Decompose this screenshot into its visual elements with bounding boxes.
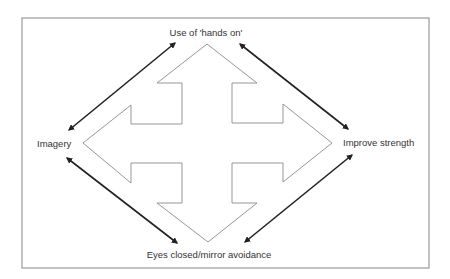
label-improve-strength: Improve strength [343,138,414,148]
label-imagery: Imagery [37,139,71,149]
label-eyes-closed: Eyes closed/mirror avoidance [0,250,418,260]
label-hands-on: Use of 'hands on' [0,28,412,38]
